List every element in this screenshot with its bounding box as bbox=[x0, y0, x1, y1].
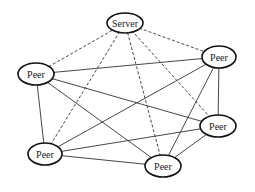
node-label: Peer bbox=[210, 52, 228, 63]
edges-layer bbox=[36, 23, 219, 166]
edge-peer-left-to-peer-right bbox=[36, 74, 218, 126]
node-label: Peer bbox=[154, 161, 172, 172]
node-label: Peer bbox=[209, 121, 227, 132]
edge-server-to-peer-bottom bbox=[125, 23, 163, 166]
edge-peer-top-right-to-peer-bottom bbox=[163, 57, 219, 166]
edge-server-to-peer-right bbox=[125, 23, 218, 126]
edge-peer-left-to-peer-bottom-left bbox=[36, 74, 45, 154]
node-label: Peer bbox=[27, 69, 45, 80]
node-peer-bottom: Peer bbox=[145, 155, 181, 177]
edge-peer-top-right-to-peer-bottom-left bbox=[45, 57, 219, 154]
network-diagram: ServerPeerPeerPeerPeerPeer bbox=[0, 0, 255, 192]
node-peer-left: Peer bbox=[18, 63, 54, 85]
nodes-layer: ServerPeerPeerPeerPeerPeer bbox=[18, 13, 236, 177]
edge-peer-left-to-peer-top-right bbox=[36, 57, 219, 74]
node-peer-top-right: Peer bbox=[202, 46, 236, 68]
node-peer-bottom-left: Peer bbox=[28, 143, 62, 165]
node-label: Server bbox=[112, 18, 139, 29]
node-server: Server bbox=[107, 13, 143, 33]
node-label: Peer bbox=[36, 149, 54, 160]
edge-server-to-peer-bottom-left bbox=[45, 23, 125, 154]
node-peer-right: Peer bbox=[200, 115, 236, 137]
